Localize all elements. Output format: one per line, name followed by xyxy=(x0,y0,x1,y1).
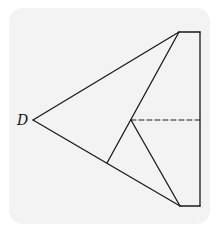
segment-top-to-foot xyxy=(107,32,179,163)
geometry-figure: D xyxy=(0,0,218,231)
segment-interior-to-bottom xyxy=(131,120,180,206)
edge-D-top xyxy=(33,32,179,120)
vertex-label-D: D xyxy=(16,112,28,128)
